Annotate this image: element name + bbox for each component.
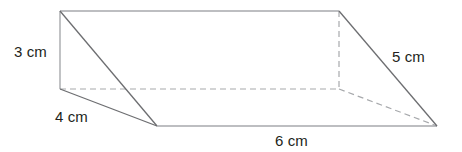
- dimension-label-slant: 5 cm: [392, 48, 425, 65]
- hidden-edge-bottom-right-diagonal: [339, 89, 437, 126]
- edge-triangle-hypotenuse-right: [339, 11, 437, 126]
- triangular-prism-figure: 3 cm 4 cm 6 cm 5 cm: [0, 0, 462, 152]
- dimension-label-base: 4 cm: [55, 108, 88, 125]
- visible-edges-group: [60, 11, 437, 126]
- prism-drawing: [0, 0, 462, 152]
- hidden-edges-group: [60, 11, 437, 126]
- dimension-label-height: 3 cm: [14, 43, 47, 60]
- dimension-label-length: 6 cm: [275, 132, 308, 149]
